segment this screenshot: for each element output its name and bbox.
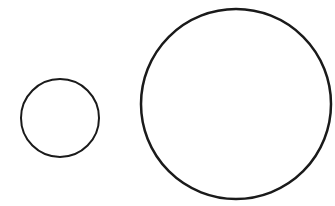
diagram-canvas xyxy=(0,0,335,206)
large-circle xyxy=(141,9,331,199)
small-circle xyxy=(21,79,99,157)
